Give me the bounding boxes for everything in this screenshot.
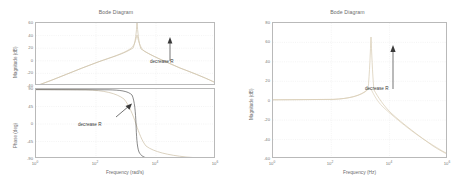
axis-xlabel-left: Frequency (rad/s): [35, 170, 215, 175]
ytick-magnitude-left-3: 0: [18, 57, 33, 62]
ytick-right-0: 80: [254, 20, 270, 25]
xtick-left-3: 106: [212, 160, 218, 166]
bode-panel-left: Bode Diagram Magnitude (dB) 60 40 20: [0, 0, 232, 189]
xtick-right-1: 102: [327, 160, 333, 166]
ytick-right-6: -40: [254, 136, 270, 141]
ytick-magnitude-left-4: -20: [18, 70, 33, 75]
ytick-right-4: 0: [254, 97, 270, 102]
xtick-left-0: 100: [32, 160, 38, 166]
bode-panel-right: Bode Diagram Magnitude (dB) 80 60 4: [232, 0, 463, 189]
plot-area-magnitude-right: [272, 22, 447, 158]
page-title-right: Bode Diagram: [232, 9, 463, 15]
xtick-left-3-exponent: 6: [216, 160, 218, 164]
ytick-magnitude-left-0: 60: [18, 20, 33, 25]
xtick-left-1: 102: [92, 160, 98, 166]
ytick-magnitude-left-2: 20: [18, 45, 33, 50]
ytick-phase-left-2: 0: [18, 121, 33, 126]
bode-figure-pair: Bode Diagram Magnitude (dB) 60 40 20: [0, 0, 463, 189]
xtick-right-0: 100: [269, 160, 275, 166]
xtick-left-0-exponent: 0: [36, 160, 38, 164]
xtick-left-1-exponent: 2: [96, 160, 98, 164]
xtick-right-3-exponent: 6: [448, 160, 450, 164]
ytick-right-3: 20: [254, 78, 270, 83]
xtick-right-2: 104: [386, 160, 392, 166]
xtick-right-3: 106: [444, 160, 450, 166]
ytick-phase-left-1: 45: [18, 103, 33, 108]
annotation-decrease-r-mag-left: decrease R: [150, 59, 174, 64]
xtick-right-1-exponent: 2: [331, 160, 333, 164]
page-title-left: Bode Diagram: [0, 9, 232, 15]
axis-xlabel-right: Frequency (Hz): [272, 170, 447, 175]
plot-area-phase-left: [35, 88, 215, 158]
xtick-right-2-exponent: 4: [390, 160, 392, 164]
ytick-right-1: 60: [254, 39, 270, 44]
xtick-right-0-exponent: 0: [273, 160, 275, 164]
xtick-left-2-exponent: 4: [156, 160, 158, 164]
ytick-phase-left-4: -90: [18, 156, 33, 161]
ytick-right-2: 40: [254, 58, 270, 63]
annotation-decrease-r-phase-left: decrease R: [78, 122, 102, 127]
ytick-phase-left-3: -45: [18, 138, 33, 143]
axis-ylabel-phase-left: Phase (deg): [13, 123, 18, 148]
ytick-phase-left-0: 90: [18, 86, 33, 91]
xtick-left-2: 104: [152, 160, 158, 166]
ytick-magnitude-left-1: 40: [18, 32, 33, 37]
annotation-decrease-r-right: decrease R: [365, 86, 389, 91]
ytick-right-7: -60: [254, 156, 270, 161]
ytick-right-5: -20: [254, 117, 270, 122]
axis-ylabel-magnitude-right: Magnitude (dB): [249, 89, 254, 120]
plot-area-magnitude-left: [35, 22, 215, 85]
